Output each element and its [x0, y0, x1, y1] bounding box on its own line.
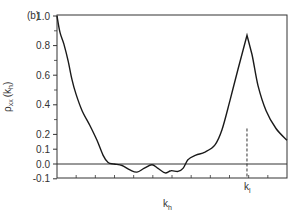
y-tick-label: 0.4: [36, 99, 50, 110]
y-tick-label: 0.0: [36, 159, 50, 170]
y-tick-label: 0.8: [36, 40, 50, 51]
k-l-label: kl: [244, 181, 251, 194]
y-tick-label: 0.2: [36, 129, 50, 140]
y-tick-label: -0.1: [33, 173, 51, 184]
y-label-close: ): [2, 82, 13, 85]
panel-label: (b): [27, 10, 39, 21]
y-label-sub: xx: [7, 99, 14, 107]
plot-border: [57, 15, 287, 178]
y-axis-ticks: -0.10.00.10.20.40.60.81.0: [33, 11, 57, 185]
y-tick-label: 0.6: [36, 70, 50, 81]
rho-xx-curve: [57, 16, 287, 173]
line-chart: -0.10.00.10.20.40.60.81.0 (b) ρxx(kh) kh…: [0, 0, 303, 217]
y-axis-label: ρxx(kh): [2, 82, 14, 112]
x-axis-label: kh: [163, 198, 172, 211]
y-tick-label: 0.1: [36, 144, 50, 155]
plot-frame: [57, 15, 287, 178]
svg-text:ρxx(kh): ρxx(kh): [2, 82, 14, 112]
